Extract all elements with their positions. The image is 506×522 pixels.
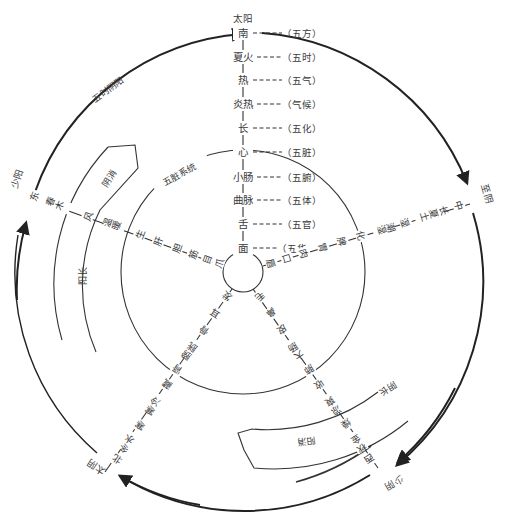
svg-text:皮: 皮	[275, 322, 289, 337]
north-spoke: 北 冬水 寒 寒冷 藏 肾 膀胱 骨 耳 发 太阴	[85, 289, 235, 478]
arc-spring-to-summer	[35, 34, 243, 192]
east-spoke: 东 春木 风 温暖 生 肝 胆 筋 目 爪 少阳	[8, 168, 226, 271]
south-axis: 太阳 南 （五方） 夏火 （五时） 热 （五气） 炎热 （气候） 长	[229, 13, 322, 255]
svg-text:（五方）: （五方）	[282, 28, 322, 39]
svg-text:长夏土: 长夏土	[417, 204, 450, 224]
svg-text:南: 南	[238, 27, 248, 39]
yin-growth-label: 阴长	[377, 380, 398, 399]
taiyang-label: 太阳	[233, 13, 253, 24]
axis-row-1: 夏火 （五时）	[229, 50, 322, 64]
axis-row-3: 炎热 （气候）	[229, 97, 322, 111]
svg-text:骨: 骨	[197, 322, 211, 337]
shaoyin-label: 少阴	[382, 473, 405, 493]
lower-right-band: 阳消 阴长	[238, 380, 408, 482]
arrow-lateSummer-to-autumn	[397, 213, 483, 465]
axis-row-0: 南 （五方）	[233, 26, 322, 40]
svg-text:肺: 肺	[301, 362, 315, 377]
axis-row-6: 小肠 （五腑）	[229, 170, 322, 184]
five-zang-diagram: 五时阴阳 五脏系统 阴消 阳长 阳消 阴长 太阳 南 （五方） 夏火 （五时）	[0, 0, 506, 522]
svg-text:发: 发	[219, 289, 233, 304]
shaoyang-label: 少阳	[8, 168, 25, 191]
svg-text:（五官）: （五官）	[282, 219, 322, 230]
svg-text:热: 热	[238, 74, 249, 86]
svg-text:舌: 舌	[238, 218, 248, 230]
svg-text:（五气）: （五气）	[282, 75, 322, 86]
taiyin-label: 太阴	[85, 457, 108, 477]
arrow-into-shaoyang	[17, 223, 26, 300]
axis-row-7: 曲脉 （五体）	[229, 193, 322, 207]
svg-text:心: 心	[238, 146, 249, 158]
zhiyin-label: 至阴	[479, 183, 495, 205]
svg-text:炎热: 炎热	[233, 98, 254, 110]
yang-decline-label: 阳消	[297, 435, 316, 448]
svg-text:寒: 寒	[133, 418, 147, 433]
center-circle	[223, 252, 263, 292]
svg-text:面: 面	[238, 242, 248, 254]
outer-arc-label: 五时阴阳	[90, 74, 126, 104]
axis-row-5: 心 （五脏）	[233, 145, 322, 159]
axis-row-2: 热 （五气）	[233, 73, 322, 87]
yin-decline-label: 阴消	[100, 168, 119, 189]
svg-text:（五脏）: （五脏）	[282, 147, 322, 158]
yang-growth-label: 阳长	[77, 267, 88, 285]
svg-text:（五体）: （五体）	[282, 195, 322, 206]
axis-row-8: 舌 （五官）	[233, 217, 322, 231]
svg-text:小肠: 小肠	[233, 171, 253, 183]
upper-left-band: 阴消 阳长	[54, 145, 138, 352]
svg-text:夏火: 夏火	[233, 51, 254, 63]
arrow-into-taiyin	[120, 476, 200, 505]
axis-row-9: 面 （五华	[233, 241, 307, 255]
svg-text:北: 北	[110, 452, 124, 467]
svg-text:（气候）: （气候）	[282, 99, 322, 110]
svg-text:耳: 耳	[208, 306, 222, 321]
svg-text:（五化）: （五化）	[282, 123, 322, 134]
svg-text:西: 西	[362, 452, 376, 467]
svg-text:（五时）: （五时）	[282, 52, 322, 63]
svg-text:曲脉: 曲脉	[233, 194, 254, 206]
svg-text:长: 长	[238, 122, 249, 134]
axis-row-4: 长 （五化）	[233, 121, 322, 135]
svg-text:（五腑）: （五腑）	[282, 172, 322, 183]
